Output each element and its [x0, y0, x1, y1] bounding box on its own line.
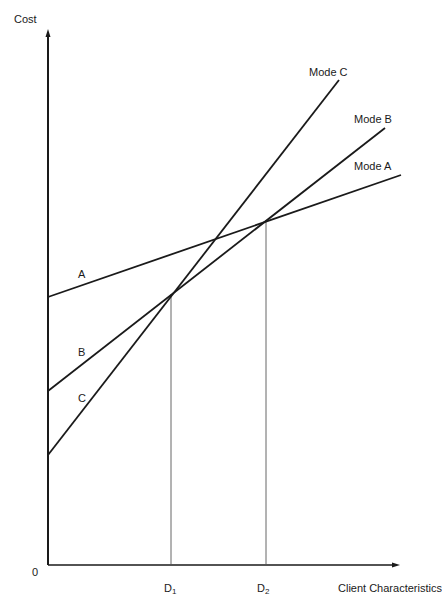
mode-b-label: Mode B — [354, 114, 392, 125]
mode-b-line — [48, 128, 385, 391]
d2-tick-label: D2 — [257, 583, 269, 596]
x-axis-arrow-icon — [392, 563, 400, 568]
origin-label: 0 — [32, 567, 38, 578]
cost-chart — [0, 0, 442, 610]
d2-subscript: 2 — [265, 587, 269, 596]
d1-tick-label: D1 — [164, 583, 176, 596]
line-a-label: A — [78, 269, 85, 280]
mode-a-line — [48, 175, 401, 297]
d2-main: D — [257, 582, 265, 594]
x-axis-label: Client Characteristics — [338, 583, 442, 594]
y-axis-arrow-icon — [46, 29, 51, 37]
mode-c-line — [48, 80, 339, 455]
y-axis-label: Cost — [14, 14, 37, 25]
line-b-label: B — [78, 347, 85, 358]
d1-main: D — [164, 582, 172, 594]
mode-a-label: Mode A — [354, 161, 391, 172]
mode-c-label: Mode C — [309, 67, 348, 78]
line-c-label: C — [78, 393, 86, 404]
d1-subscript: 1 — [172, 587, 176, 596]
